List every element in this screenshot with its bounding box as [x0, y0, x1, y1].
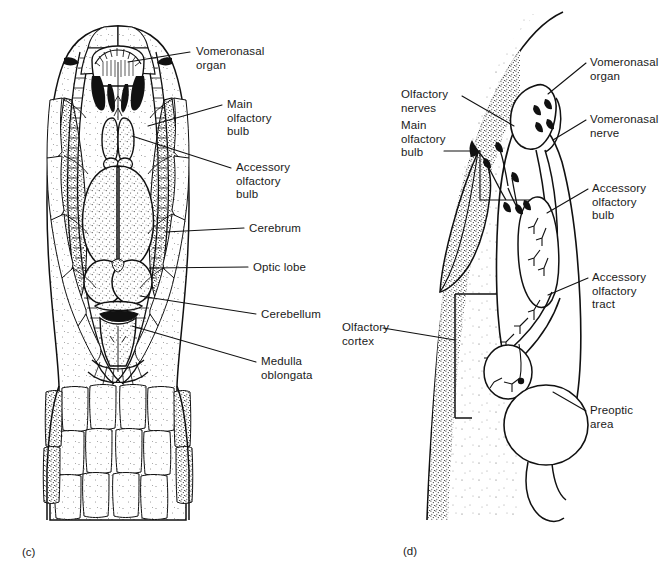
label-vomeronasal-organ-d: Vomeronasalorgan	[590, 56, 658, 83]
label-line: Accessory	[592, 182, 646, 196]
label-line: Vomeronasal	[196, 45, 264, 59]
preoptic-area	[504, 385, 588, 465]
label-line: organ	[196, 59, 264, 73]
label-line: olfactory	[401, 133, 446, 147]
label-line: Main	[401, 119, 446, 133]
label-line: tract	[592, 298, 646, 312]
label-line: Optic lobe	[253, 261, 306, 275]
label-line: Vomeronasal	[590, 56, 658, 70]
label-olfactory-nerves-d: Olfactorynerves	[401, 88, 448, 115]
label-line: Vomeronasal	[590, 113, 658, 127]
label-line: organ	[590, 70, 658, 84]
label-line: olfactory	[236, 175, 290, 189]
label-line: nerves	[401, 102, 448, 116]
label-medulla-oblongata-c: Medullaoblongata	[261, 355, 313, 382]
panel-letter-c: (c)	[22, 546, 35, 558]
label-line: Olfactory	[342, 321, 389, 335]
label-line: Accessory	[592, 271, 646, 285]
panel-d-artwork	[424, 12, 588, 521]
label-line: Olfactory	[401, 88, 448, 102]
label-preoptic-area-d: Preopticarea	[590, 404, 633, 431]
panel-c-artwork	[43, 26, 193, 520]
label-line: Accessory	[236, 161, 290, 175]
label-accessory-olfactory-bulb-c: Accessoryolfactorybulb	[236, 161, 290, 202]
label-line: bulb	[401, 146, 446, 160]
label-vomeronasal-nerve-d: Vomeronasalnerve	[590, 113, 658, 140]
label-line: oblongata	[261, 369, 313, 383]
label-line: Cerebrum	[249, 222, 301, 236]
figure-root: (c)VomeronasalorganMainolfactorybulbAcce…	[0, 0, 670, 577]
label-line: Preoptic	[590, 404, 633, 418]
label-main-olfactory-bulb-d: Mainolfactorybulb	[401, 119, 446, 160]
infundibular-stalk	[526, 462, 566, 521]
label-line: bulb	[236, 188, 290, 202]
optic-lobes	[84, 259, 152, 304]
label-line: area	[590, 418, 633, 432]
label-line: Main	[227, 98, 272, 112]
leader-vomeronasal-organ-d	[548, 63, 586, 94]
label-line: Cerebellum	[261, 308, 321, 322]
label-cerebellum-c: Cerebellum	[261, 308, 321, 322]
label-line: bulb	[227, 125, 272, 139]
label-olfactory-cortex-d: Olfactorycortex	[342, 321, 389, 348]
panel-letter-d: (d)	[403, 545, 417, 557]
label-line: nerve	[590, 127, 658, 141]
label-vomeronasal-organ-c: Vomeronasalorgan	[196, 45, 264, 72]
label-line: olfactory	[592, 285, 646, 299]
label-line: olfactory	[592, 196, 646, 210]
label-cerebrum-c: Cerebrum	[249, 222, 301, 236]
label-line: Medulla	[261, 355, 313, 369]
label-line: olfactory	[227, 112, 272, 126]
label-accessory-olfactory-tract-d: Accessoryolfactorytract	[592, 271, 646, 312]
figure-artwork	[0, 0, 670, 577]
label-optic-lobe-c: Optic lobe	[253, 261, 306, 275]
label-line: bulb	[592, 209, 646, 223]
label-accessory-olfactory-bulb-d: Accessoryolfactorybulb	[592, 182, 646, 223]
label-main-olfactory-bulb-c: Mainolfactorybulb	[227, 98, 272, 139]
label-line: cortex	[342, 335, 389, 349]
leader-vomeronasal-nerve-d	[553, 120, 586, 140]
